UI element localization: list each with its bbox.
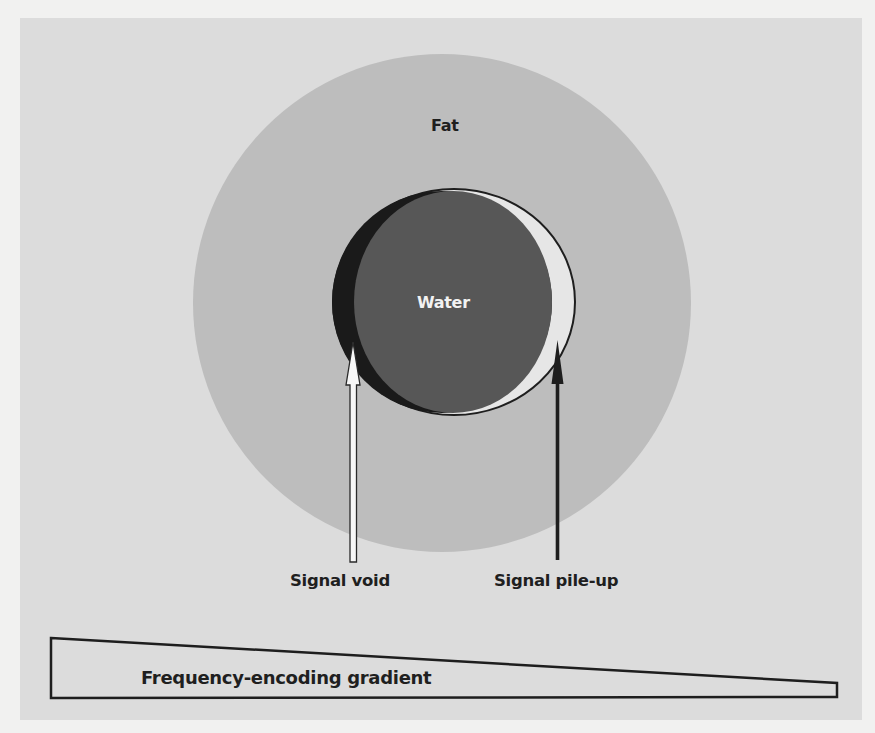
water-label: Water bbox=[417, 295, 470, 311]
gradient-label: Frequency-encoding gradient bbox=[141, 669, 431, 687]
fat-label: Fat bbox=[431, 118, 459, 134]
signal-pileup-label: Signal pile-up bbox=[494, 573, 618, 590]
diagram-stage: Fat Water Signal void Signal pile-up Fre… bbox=[0, 0, 875, 733]
signal-void-label: Signal void bbox=[290, 573, 390, 590]
diagram-graphic bbox=[0, 0, 875, 733]
